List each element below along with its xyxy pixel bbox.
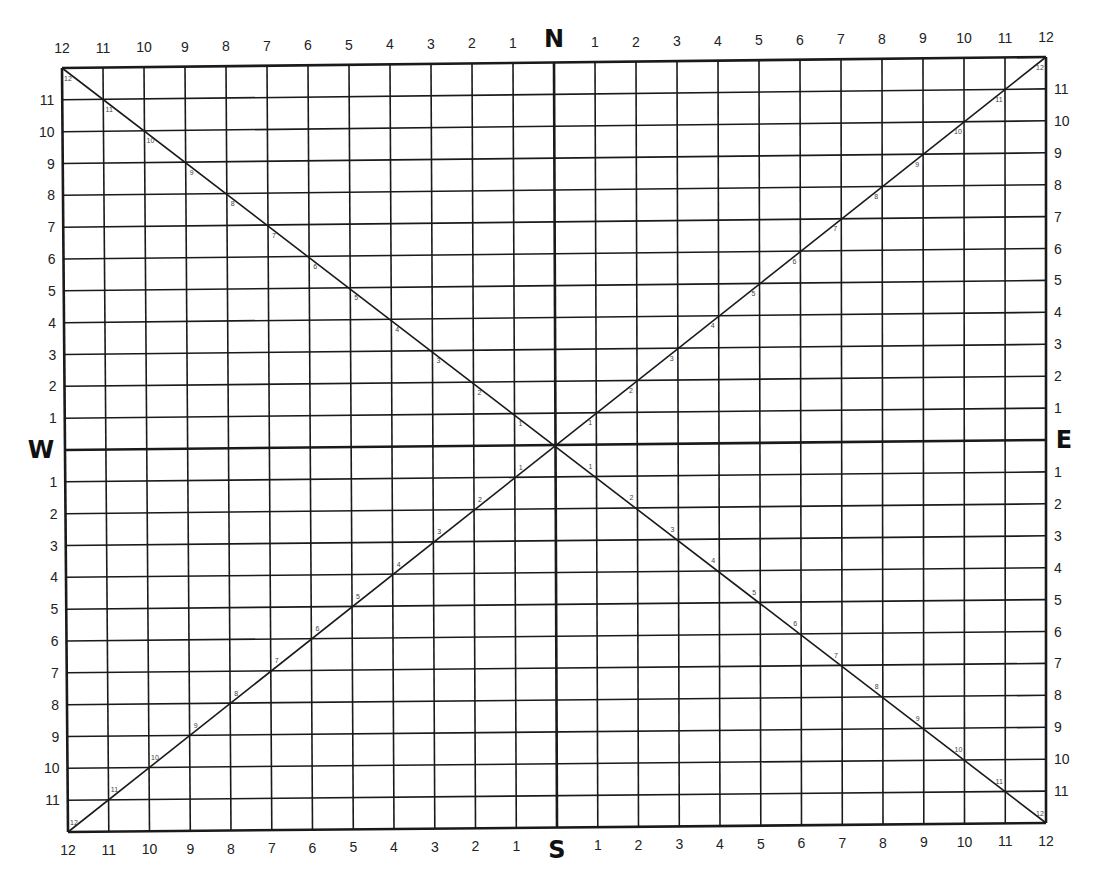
diagonal-tick-label: 6 xyxy=(313,263,317,270)
left-tick-label: 7 xyxy=(48,219,56,235)
right-tick-label: 6 xyxy=(1054,241,1062,257)
vertical-grid-line xyxy=(841,59,842,825)
right-tick-label: 7 xyxy=(1054,209,1062,225)
vertical-grid-line xyxy=(923,58,924,824)
bottom-tick-label: 10 xyxy=(142,841,158,857)
right-tick-label: 4 xyxy=(1054,304,1062,320)
left-tick-label: 3 xyxy=(50,538,58,554)
left-tick-label: 1 xyxy=(49,410,57,426)
bottom-tick-label: 5 xyxy=(349,839,357,855)
diagonal-tick-label: 1 xyxy=(588,419,592,426)
left-tick-label: 5 xyxy=(51,601,59,617)
diagonal-tick-label: 1 xyxy=(519,420,523,427)
right-tick-label: 10 xyxy=(1054,113,1070,129)
top-tick-label: 1 xyxy=(509,35,517,51)
bottom-tick-label: 3 xyxy=(675,836,683,852)
diagonal-tick-label: 1 xyxy=(519,464,523,471)
diagonal-tick-label: 2 xyxy=(630,494,634,501)
diagonal-tick-label: 12 xyxy=(64,75,72,82)
left-tick-label: 3 xyxy=(49,347,57,363)
bottom-tick-label: 7 xyxy=(838,835,846,851)
diagonal-tick-label: 4 xyxy=(711,557,715,564)
diagonal-tick-label: 12 xyxy=(70,819,78,826)
top-tick-label: 2 xyxy=(632,34,640,50)
diagonal-tick-label: 9 xyxy=(916,715,920,722)
top-tick-label: 1 xyxy=(591,34,599,50)
bottom-tick-label: 9 xyxy=(186,841,194,857)
bottom-tick-label: 2 xyxy=(635,837,643,853)
left-tick-label: 7 xyxy=(51,665,59,681)
south-label: S xyxy=(548,836,565,864)
diagonal-tick-label: 5 xyxy=(354,294,358,301)
top-tick-label: 6 xyxy=(304,37,312,53)
right-tick-label: 2 xyxy=(1054,368,1062,384)
top-tick-label: 12 xyxy=(54,40,70,56)
bottom-tick-label: 4 xyxy=(716,836,724,852)
right-tick-label: 8 xyxy=(1054,177,1062,193)
vertical-grid-line xyxy=(759,60,761,825)
bottom-tick-label: 7 xyxy=(268,840,276,856)
top-tick-label: 9 xyxy=(181,39,189,55)
diagonal-tick-label: 9 xyxy=(194,722,198,729)
top-tick-label: 5 xyxy=(345,37,353,53)
diagonal-tick-label: 11 xyxy=(995,96,1002,103)
diagonal-tick-label: 10 xyxy=(954,128,962,135)
left-tick-label: 10 xyxy=(39,124,55,140)
bottom-tick-label: 12 xyxy=(60,842,76,858)
top-tick-label: 8 xyxy=(222,38,230,54)
bottom-tick-label: 2 xyxy=(472,838,480,854)
right-tick-label: 11 xyxy=(1054,783,1069,799)
right-tick-label: 1 xyxy=(1054,400,1062,416)
top-tick-label: 2 xyxy=(468,35,476,51)
vertical-grid-line xyxy=(800,60,802,826)
left-tick-label: 9 xyxy=(47,156,55,172)
diagonal-tick-label: 7 xyxy=(834,652,838,659)
left-tick-label: 11 xyxy=(40,92,55,108)
diagonal-tick-label: 3 xyxy=(436,357,440,364)
left-tick-label: 11 xyxy=(45,792,60,808)
left-tick-label: 5 xyxy=(48,283,56,299)
diagonal-tick-label: 9 xyxy=(915,161,919,168)
bottom-tick-label: 6 xyxy=(309,840,317,856)
diagonal-tick-label: 10 xyxy=(151,754,159,761)
diagonal-tick-label: 2 xyxy=(478,389,482,396)
right-tick-label: 8 xyxy=(1054,687,1062,703)
bottom-tick-label: 9 xyxy=(920,834,928,850)
left-tick-label: 8 xyxy=(51,697,59,713)
diagonal-tick-label: 2 xyxy=(629,387,633,394)
bottom-tick-label: 11 xyxy=(102,842,117,858)
compass-grid-diagram: 121110987654321N123456789101112121110987… xyxy=(0,0,1098,886)
diagonal-tick-label: 3 xyxy=(670,526,674,533)
diagonal-tick-label: 6 xyxy=(792,258,796,265)
diagonal-tick-label: 5 xyxy=(752,290,756,297)
top-tick-label: 4 xyxy=(714,33,722,49)
diagonal-tick-label: 8 xyxy=(874,193,878,200)
left-tick-label: 2 xyxy=(50,506,58,522)
bottom-tick-label: 3 xyxy=(431,839,439,855)
diagonal-tick-label: 8 xyxy=(231,200,235,207)
diagonal-tick-label: 2 xyxy=(478,496,482,503)
diagonal-tick-label: 4 xyxy=(397,561,401,568)
left-tick-label: 2 xyxy=(49,378,57,394)
right-tick-label: 10 xyxy=(1054,751,1070,767)
bottom-tick-label: 1 xyxy=(594,837,602,853)
top-tick-label: 12 xyxy=(1038,29,1054,45)
diagonal-tick-label: 4 xyxy=(711,322,715,329)
top-tick-label: 11 xyxy=(998,30,1013,46)
left-tick-label: 10 xyxy=(44,760,60,776)
bottom-tick-label: 12 xyxy=(1038,833,1054,849)
right-tick-label: 2 xyxy=(1054,496,1062,512)
left-tick-label: 1 xyxy=(50,474,58,490)
right-tick-label: 7 xyxy=(1054,655,1062,671)
north-label: N xyxy=(544,25,564,53)
west-label: W xyxy=(28,436,54,464)
right-tick-label: 3 xyxy=(1054,336,1062,352)
top-tick-label: 10 xyxy=(136,39,152,55)
east-label: E xyxy=(1056,426,1072,454)
top-tick-label: 7 xyxy=(837,31,845,47)
diagonal-tick-label: 10 xyxy=(955,746,963,753)
diagonal-tick-label: 4 xyxy=(395,326,399,333)
bottom-tick-label: 4 xyxy=(390,839,398,855)
top-tick-label: 7 xyxy=(263,38,271,54)
top-tick-label: 4 xyxy=(386,36,394,52)
